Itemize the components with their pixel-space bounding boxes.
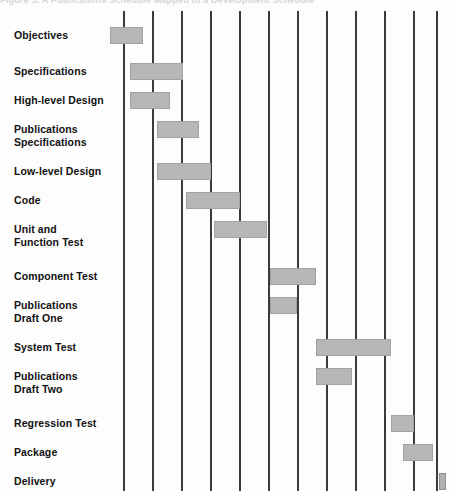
task-bar[interactable]: [157, 121, 199, 138]
task-bar[interactable]: [316, 368, 352, 385]
row-label: Delivery: [14, 475, 122, 488]
task-bar[interactable]: [214, 221, 267, 238]
row-label-line1: Code: [14, 194, 41, 206]
task-bar[interactable]: [110, 27, 143, 44]
gridline-12: [436, 11, 438, 491]
task-bar[interactable]: [186, 192, 240, 209]
figure-caption-clipped: Figure 3. A Publications Schedule Mapped…: [0, 0, 456, 11]
row-label: System Test: [14, 341, 122, 354]
row-label: PublicationsDraft Two: [14, 370, 122, 395]
row-label-line2: Draft Two: [14, 383, 122, 396]
row-label: PublicationsSpecifications: [14, 123, 122, 148]
row-label: High-level Design: [14, 94, 122, 107]
task-bar[interactable]: [316, 339, 391, 356]
row-label: Low-level Design: [14, 165, 122, 178]
row-label: Regression Test: [14, 417, 122, 430]
row-label-line2: Function Test: [14, 236, 122, 249]
row-label: Component Test: [14, 270, 122, 283]
task-bar[interactable]: [157, 163, 211, 180]
task-bar[interactable]: [130, 63, 183, 80]
gantt-chart: Figure 3. A Publications Schedule Mapped…: [0, 0, 456, 491]
row-label-line1: Regression Test: [14, 417, 96, 429]
row-label-line1: Delivery: [14, 475, 56, 487]
row-label-line2: Specifications: [14, 136, 122, 149]
gantt-plot-area: ObjectivesSpecificationsHigh-level Desig…: [0, 11, 456, 491]
row-label-line1: Publications: [14, 123, 78, 135]
task-bar[interactable]: [270, 268, 316, 285]
row-label-line1: High-level Design: [14, 94, 104, 106]
row-label-line1: Low-level Design: [14, 165, 101, 177]
task-bar[interactable]: [270, 297, 297, 314]
gridline-3: [181, 11, 183, 491]
row-label-line1: Publications: [14, 370, 78, 382]
row-label: PublicationsDraft One: [14, 299, 122, 324]
row-label-line1: Publications: [14, 299, 78, 311]
task-bar[interactable]: [403, 444, 433, 461]
gridline-2: [152, 11, 154, 491]
gridline-5: [239, 11, 241, 491]
row-label: Unit andFunction Test: [14, 223, 122, 248]
row-label: Specifications: [14, 65, 122, 78]
gridline-1: [123, 11, 125, 491]
row-label-line1: System Test: [14, 341, 76, 353]
row-label-line1: Component Test: [14, 270, 97, 282]
row-label-line1: Specifications: [14, 65, 87, 77]
row-label: Objectives: [14, 29, 122, 42]
task-bar[interactable]: [391, 415, 414, 432]
row-label: Code: [14, 194, 122, 207]
task-bar[interactable]: [130, 92, 170, 109]
gridline-4: [210, 11, 212, 491]
gridline-6: [268, 11, 270, 491]
gridline-10: [384, 11, 386, 491]
figure-caption-text: Figure 3. A Publications Schedule Mapped…: [0, 0, 314, 6]
row-label-line1: Unit and: [14, 223, 57, 235]
row-label-line2: Draft One: [14, 312, 122, 325]
row-label-line1: Package: [14, 446, 57, 458]
gridline-9: [355, 11, 357, 491]
row-label: Package: [14, 446, 122, 459]
row-label-line1: Objectives: [14, 29, 68, 41]
gridline-8: [326, 11, 328, 491]
gridline-7: [297, 11, 299, 491]
task-bar[interactable]: [439, 473, 446, 490]
